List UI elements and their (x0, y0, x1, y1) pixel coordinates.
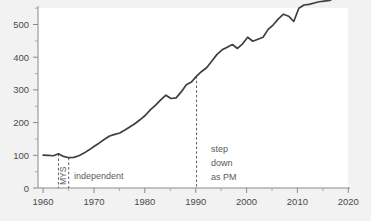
data-line-path (43, 0, 345, 158)
annotation-label-mys: MYS (58, 166, 68, 185)
chart-container: 0 100 200 300 400 500 1960 (0, 0, 371, 221)
annotation-label-step-down-line2: down (211, 158, 233, 168)
y-tick-label-500: 500 (13, 19, 29, 30)
x-tick-label-2010: 2010 (287, 196, 308, 207)
x-tick-label-1980: 1980 (134, 196, 155, 207)
annotation-label-independent: independent (74, 171, 124, 181)
x-tick-label-1970: 1970 (83, 196, 104, 207)
y-tick-label-400: 400 (13, 52, 29, 63)
x-tick-label-1990: 1990 (185, 196, 206, 207)
line-chart: 0 100 200 300 400 500 1960 (0, 0, 371, 221)
y-axis: 0 100 200 300 400 500 (13, 6, 38, 194)
data-series-index (43, 0, 345, 158)
y-tick-label-200: 200 (13, 117, 29, 128)
annotation-labels: MYS independent step down as PM (58, 144, 237, 185)
y-tick-label-0: 0 (24, 183, 29, 194)
x-axis: 1960 1970 1980 1990 2000 2010 2020 (33, 188, 359, 207)
x-tick-label-2020: 2020 (338, 196, 359, 207)
y-tick-label-100: 100 (13, 150, 29, 161)
x-tick-label-2000: 2000 (236, 196, 257, 207)
annotation-label-step-down-line1: step (211, 144, 228, 154)
y-tick-label-300: 300 (13, 84, 29, 95)
x-tick-label-1960: 1960 (33, 196, 54, 207)
annotation-label-step-down-line3: as PM (211, 172, 237, 182)
